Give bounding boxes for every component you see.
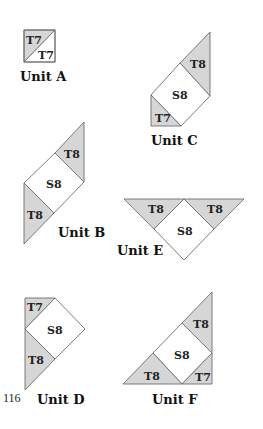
unit-a-label: Unit A — [20, 69, 67, 84]
unit-f-piece-label-t7: T7 — [195, 371, 211, 384]
unit-d: T7 S8 T8 Unit D — [25, 298, 85, 407]
unit-c-piece-label-t7: T7 — [155, 112, 171, 125]
unit-b-label: Unit B — [58, 225, 105, 240]
unit-f: T8 S8 T8 T7 Unit F — [123, 292, 212, 407]
unit-d-piece-label-s8: S8 — [47, 324, 63, 337]
unit-d-piece-label-t8: T8 — [28, 354, 44, 367]
unit-d-label: Unit D — [37, 392, 85, 407]
unit-e-label: Unit E — [117, 243, 163, 258]
page-number: 116 — [3, 391, 21, 405]
unit-b: T8 S8 T8 Unit B — [24, 122, 105, 244]
unit-a: T7 T7 Unit A — [20, 30, 67, 84]
unit-b-piece-label-t8-top: T8 — [64, 148, 80, 161]
unit-f-piece-label-t8-top: T8 — [193, 318, 209, 331]
unit-e-piece-label-s8: S8 — [177, 225, 193, 238]
unit-a-piece-label-1: T7 — [26, 34, 42, 47]
unit-b-piece-label-t8-bottom: T8 — [27, 209, 43, 222]
unit-a-piece-label-2: T7 — [38, 49, 54, 62]
unit-e: T8 S8 T8 Unit E — [117, 199, 244, 260]
quilt-units-diagram: T7 T7 Unit A T8 S8 T7 Unit C T8 S8 T8 Un… — [0, 0, 263, 429]
unit-b-piece-label-s8: S8 — [46, 178, 62, 191]
unit-c: T8 S8 T7 Unit C — [151, 32, 210, 148]
unit-f-label: Unit F — [152, 392, 198, 407]
unit-d-piece-label-t7: T7 — [27, 301, 43, 314]
unit-e-piece-label-t8-right: T8 — [207, 203, 223, 216]
unit-c-piece-label-s8: S8 — [172, 89, 188, 102]
unit-c-piece-label-t8: T8 — [190, 58, 206, 71]
unit-f-piece-label-t8-left: T8 — [144, 370, 160, 383]
unit-f-piece-label-s8: S8 — [174, 349, 190, 362]
unit-e-piece-label-t8-left: T8 — [148, 203, 164, 216]
unit-c-label: Unit C — [151, 133, 198, 148]
